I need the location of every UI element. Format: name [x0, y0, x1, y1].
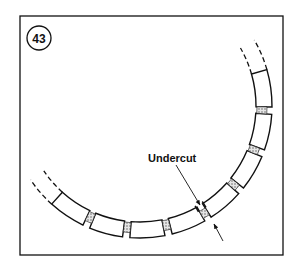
commutator-diagram: 43 Undercut: [0, 0, 296, 268]
mica-insulator: [123, 222, 131, 233]
continuation-dash: [254, 40, 267, 70]
commutator-segments-ring: [31, 40, 272, 238]
undercut-label: Undercut: [148, 152, 197, 164]
commutator-segment: [252, 70, 272, 107]
mica-insulator: [257, 107, 267, 114]
commutator-segment: [52, 192, 90, 225]
continuation-dash: [31, 180, 52, 204]
continuation-dash: [44, 171, 63, 192]
commutator-segment: [130, 220, 165, 238]
commutator-segment: [249, 113, 271, 150]
commutator-segment: [168, 207, 205, 234]
undercut-leader-line: [176, 165, 200, 205]
continuation-dash: [240, 48, 251, 74]
figure-number-badge: 43: [27, 26, 51, 50]
figure-number: 43: [32, 32, 46, 46]
figure-frame: [20, 16, 283, 255]
undercut-depth-arrow: [214, 224, 223, 241]
commutator-segment: [90, 213, 125, 237]
